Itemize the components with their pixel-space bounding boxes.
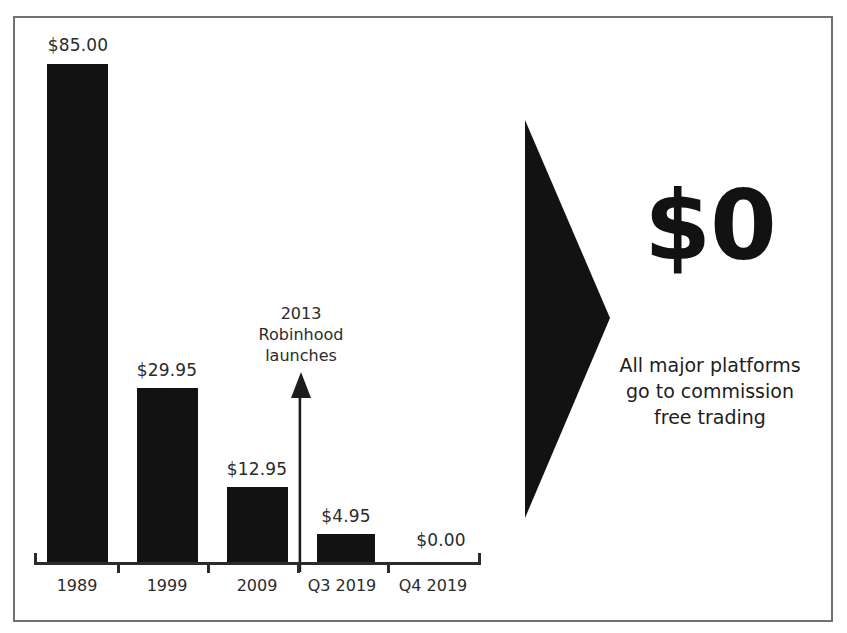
bar-label-1999: $29.95 [117,360,217,380]
x-tick-label-q4-2019: Q4 2019 [383,576,483,595]
bar-label-q4-2019: $0.00 [391,530,491,550]
x-axis-right-cap [478,553,481,565]
bar-label-1989: $85.00 [28,35,128,55]
zero-commission-caption: All major platforms go to commission fre… [612,352,808,430]
right-arrow-triangle-icon [505,110,625,530]
x-tick-label-1999: 1999 [117,576,217,595]
x-axis-tick-1989 [117,562,120,573]
x-axis-tick-q3-2019 [387,562,390,573]
bar-2009 [227,487,288,562]
bar-1999 [137,388,198,562]
bar-1989 [47,64,108,562]
up-arrow-icon [282,372,320,572]
zero-commission-headline: $0 [620,178,800,274]
x-axis-left-cap [34,553,37,565]
chart-page: $85.00 $29.95 $12.95 $4.95 $0.00 2013 Ro… [0,0,847,633]
annotation-line-verb: launches [243,345,359,366]
x-axis-tick-2009 [297,562,300,573]
x-tick-label-1989: 1989 [27,576,127,595]
chart-plot-area: $85.00 $29.95 $12.95 $4.95 $0.00 2013 Ro… [0,0,847,633]
annotation-robinhood-launch: 2013 Robinhood launches [243,303,359,366]
x-tick-label-q3-2019: Q3 2019 [292,576,392,595]
annotation-line-brand: Robinhood [243,324,359,345]
bar-q3-2019 [317,534,375,562]
x-axis-tick-1999 [207,562,210,573]
annotation-line-year: 2013 [243,303,359,324]
x-axis-line [34,562,481,565]
